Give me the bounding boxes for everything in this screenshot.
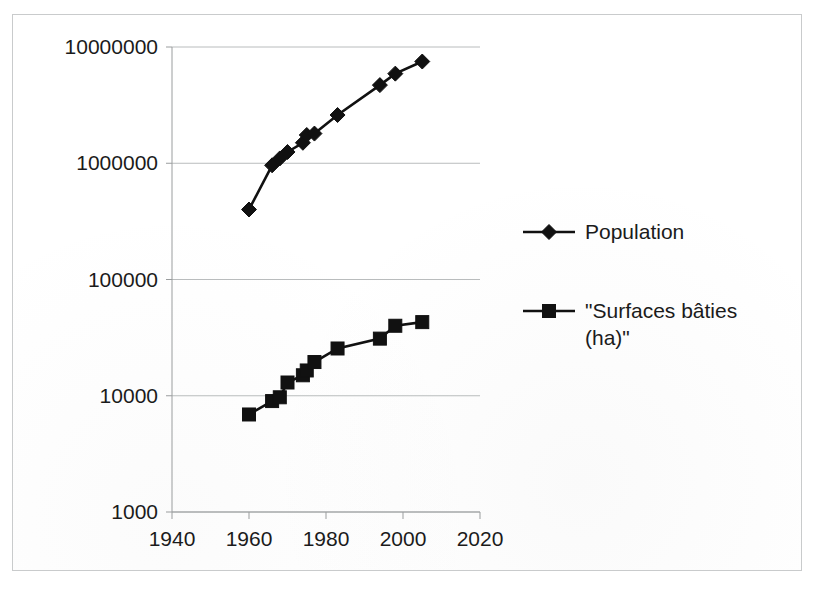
x-axis-label-1940: 1940 (149, 528, 196, 549)
diamond-marker-icon (521, 219, 577, 245)
x-axis-label-1960: 1960 (226, 528, 273, 549)
x-axis-label-2020: 2020 (457, 528, 504, 549)
x-axis-label-2000: 2000 (380, 528, 427, 549)
legend-entry-population: Population (521, 218, 786, 245)
legend-entry-surfaces-baties: "Surfaces bâties (ha)" (521, 297, 786, 351)
legend-label: "Surfaces bâties (ha)" (585, 297, 781, 351)
legend-label: Population (585, 218, 684, 245)
x-axis-label-1980: 1980 (303, 528, 350, 549)
chart-legend: Population"Surfaces bâties (ha)" (521, 218, 786, 403)
square-marker-icon (521, 298, 577, 324)
